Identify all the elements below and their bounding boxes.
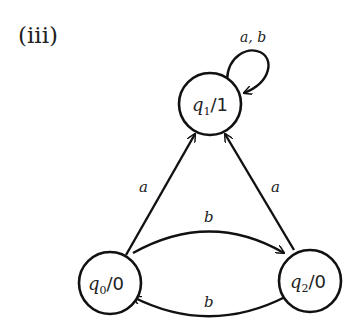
transition-q0-q1: a xyxy=(126,134,195,255)
transition-label: b xyxy=(204,208,214,226)
state-q1: q1/1 xyxy=(179,73,241,135)
state-label: q1/1 xyxy=(192,94,228,118)
transition-q2-q1: a xyxy=(225,134,294,250)
transition-q0-q2: b xyxy=(133,208,284,253)
edge-arrow xyxy=(225,134,294,250)
state-q0: q0/0 xyxy=(79,252,141,314)
transition-label: a xyxy=(271,178,280,196)
edge-arrow xyxy=(133,232,284,254)
transition-label: a, b xyxy=(240,29,266,45)
transition-label: a xyxy=(139,178,148,196)
transition-q2-q0: b xyxy=(133,293,287,316)
transition-label: b xyxy=(204,293,214,311)
state-q2: q2/0 xyxy=(279,250,341,312)
figure-label: (iii) xyxy=(18,22,58,48)
state-label: q0/0 xyxy=(88,273,124,297)
state-label: q2/0 xyxy=(290,271,326,295)
edge-arrow xyxy=(126,134,195,255)
moore-machine-diagram: (iii) a, b a a b b q1/1 q0/0 q2/0 xyxy=(0,0,361,330)
